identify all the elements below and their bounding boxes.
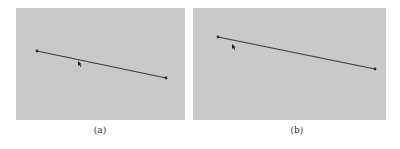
drawing-overlay (0, 0, 400, 149)
mouse-cursor-icon (232, 44, 236, 50)
caption-b: (b) (277, 125, 317, 135)
line-endpoint-b-end[interactable] (374, 68, 377, 71)
caption-a: (a) (80, 125, 120, 135)
line-endpoint-b-start[interactable] (217, 36, 220, 39)
line-endpoint-a-end[interactable] (165, 77, 168, 80)
line-segment-b[interactable] (218, 37, 375, 69)
line-segment-a[interactable] (37, 51, 166, 78)
mouse-cursor-icon (78, 61, 82, 67)
panel-a-drawing (36, 50, 168, 80)
line-endpoint-a-start[interactable] (36, 50, 39, 53)
panel-b-drawing (217, 36, 377, 71)
